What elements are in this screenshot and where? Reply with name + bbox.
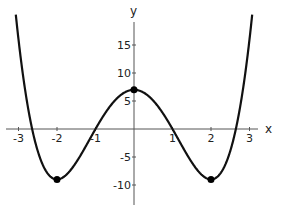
extremum-point — [208, 176, 215, 183]
extremum-point — [131, 86, 138, 93]
x-tick-label: 2 — [208, 132, 215, 145]
y-axis-label: y — [130, 4, 137, 18]
x-tick-label: -2 — [52, 132, 63, 145]
y-tick-label: 15 — [117, 39, 131, 52]
ticks: -3-2-1123-10-551015 — [13, 39, 253, 192]
y-tick-label: -10 — [113, 179, 131, 192]
extremum-point — [54, 176, 61, 183]
x-tick-label: 3 — [246, 132, 253, 145]
axes: xy — [6, 4, 272, 205]
y-tick-label: -5 — [120, 151, 131, 164]
x-axis-label: x — [265, 122, 272, 136]
function-plot: xy -3-2-1123-10-551015 — [0, 0, 282, 211]
x-tick-label: -3 — [13, 132, 24, 145]
y-tick-label: 5 — [124, 95, 131, 108]
y-tick-label: 10 — [117, 67, 131, 80]
